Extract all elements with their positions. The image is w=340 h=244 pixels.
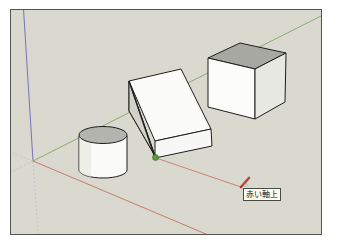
wedge[interactable]: [129, 69, 212, 158]
drawn-line-preview: [156, 158, 241, 187]
drawing-viewport[interactable]: 赤い軸上: [10, 9, 322, 235]
cylinder[interactable]: [79, 127, 127, 179]
green-axis-negative: [10, 161, 33, 177]
blue-axis-negative: [33, 161, 39, 235]
pencil-cursor-icon: [240, 178, 249, 188]
inference-tooltip: 赤い軸上: [243, 188, 281, 201]
blue-axis: [23, 9, 33, 161]
red-axis-negative: [10, 149, 33, 161]
inference-endpoint-marker: [153, 155, 159, 161]
scene-canvas[interactable]: [10, 9, 322, 235]
cube[interactable]: [208, 43, 286, 119]
